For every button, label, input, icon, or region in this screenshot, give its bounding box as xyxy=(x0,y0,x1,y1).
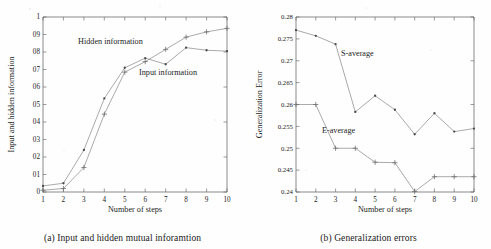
chart-a-y-axis-title: Input and hidden information xyxy=(7,56,16,152)
series-label-hidden-information: Hidden information xyxy=(78,37,143,46)
x-tick-label: 1 xyxy=(41,196,45,204)
x-tick-label: 5 xyxy=(373,196,377,204)
scan-noise-b xyxy=(306,7,432,170)
x-tick-label: 8 xyxy=(433,196,437,204)
chart-b-x-ticks xyxy=(296,17,474,192)
chart-b-x-axis-title: Number of steps xyxy=(358,205,412,214)
figure-page: 0 01 02 03 04 05 06 07 08 09 1 xyxy=(0,0,491,249)
data-point xyxy=(124,67,126,69)
chart-b-series-group xyxy=(293,29,476,194)
y-tick-label: 08 xyxy=(33,48,41,56)
data-point xyxy=(334,43,336,45)
x-tick-label: 4 xyxy=(103,196,107,204)
x-tick-label: 10 xyxy=(470,196,478,204)
series-line-input-information xyxy=(43,28,227,190)
series-label-e-average: E-average xyxy=(322,126,356,135)
y-tick-label: 0.26 xyxy=(281,101,293,108)
y-tick-label: 0.255 xyxy=(278,123,294,130)
series-line-e-average xyxy=(296,105,474,192)
data-point xyxy=(226,50,228,52)
y-tick-label: 05 xyxy=(33,101,41,109)
x-tick-label: 6 xyxy=(143,196,147,204)
data-point xyxy=(473,127,475,129)
data-point xyxy=(315,35,317,37)
data-point xyxy=(165,63,167,65)
chart-a-x-ticklabels: 1 2 3 4 5 6 7 8 9 10 xyxy=(41,196,231,204)
series-markers-hidden-information xyxy=(42,46,228,187)
data-point xyxy=(295,29,297,31)
chart-b-y-ticklabels: 0.24 0.245 0.25 0.255 0.26 0.265 0.27 0.… xyxy=(278,13,294,195)
y-tick-label: 0.275 xyxy=(278,35,294,42)
data-point xyxy=(144,57,146,59)
data-point xyxy=(374,95,376,97)
x-tick-label: 8 xyxy=(184,196,188,204)
x-tick-label: 3 xyxy=(334,196,338,204)
y-tick-label: 07 xyxy=(33,66,41,74)
data-point xyxy=(394,109,396,111)
x-tick-label: 4 xyxy=(354,196,358,204)
chart-b-axes xyxy=(296,17,474,192)
data-point xyxy=(205,49,207,51)
y-tick-label: 0.24 xyxy=(281,188,293,195)
y-tick-label: 1 xyxy=(36,13,40,21)
chart-b-y-ticks xyxy=(296,17,474,192)
x-tick-label: 7 xyxy=(164,196,168,204)
series-line-hidden-information xyxy=(43,48,227,186)
chart-b-canvas: 0.24 0.245 0.25 0.255 0.26 0.265 0.27 0.… xyxy=(246,0,491,215)
chart-a-x-axis-title: Number of steps xyxy=(108,205,162,214)
chart-b-x-ticklabels: 1 2 3 4 5 6 7 8 9 10 xyxy=(294,196,478,204)
x-tick-label: 5 xyxy=(123,196,127,204)
x-tick-label: 1 xyxy=(294,196,298,204)
y-tick-label: 0.245 xyxy=(278,166,294,173)
scan-noise-a xyxy=(29,5,215,150)
series-label-input-information: Input information xyxy=(139,68,197,77)
chart-b-y-axis-title: Generalization Error xyxy=(255,70,264,138)
y-tick-label: 09 xyxy=(33,31,41,39)
y-tick-label: 02 xyxy=(33,153,41,161)
y-tick-label: 0.265 xyxy=(278,79,294,86)
x-tick-label: 10 xyxy=(223,196,231,204)
data-point xyxy=(83,149,85,151)
data-point xyxy=(185,46,187,48)
data-point xyxy=(42,185,44,187)
y-tick-label: 06 xyxy=(33,83,41,91)
y-tick-label: 0.25 xyxy=(281,145,293,152)
x-tick-label: 6 xyxy=(393,196,397,204)
x-tick-label: 7 xyxy=(413,196,417,204)
series-line-s-average xyxy=(296,30,474,134)
data-point xyxy=(433,112,435,114)
figure-b-caption: (b) Generalization errors xyxy=(246,233,491,243)
x-tick-label: 3 xyxy=(82,196,86,204)
y-tick-label: 0.28 xyxy=(281,13,293,20)
series-label-s-average: S-average xyxy=(341,49,374,58)
figure-a-caption: (a) Input and hidden mutual inforamtion xyxy=(0,233,245,243)
data-point xyxy=(103,97,105,99)
data-point xyxy=(414,133,416,135)
data-point xyxy=(453,130,455,132)
x-tick-label: 9 xyxy=(205,196,209,204)
figure-b: 0.24 0.245 0.25 0.255 0.26 0.265 0.27 0.… xyxy=(246,0,491,249)
figure-a: 0 01 02 03 04 05 06 07 08 09 1 xyxy=(0,0,245,249)
chart-a-canvas: 0 01 02 03 04 05 06 07 08 09 1 xyxy=(0,0,245,215)
y-tick-label: 0 xyxy=(36,188,40,196)
data-point xyxy=(354,111,356,113)
series-markers-input-information xyxy=(40,26,229,193)
chart-a-series-group xyxy=(40,26,229,193)
y-tick-label: 04 xyxy=(33,118,41,126)
y-tick-label: 03 xyxy=(33,136,41,144)
x-tick-label: 9 xyxy=(452,196,456,204)
x-tick-label: 2 xyxy=(314,196,318,204)
y-tick-label: 0.27 xyxy=(281,57,293,64)
series-markers-s-average xyxy=(295,29,475,135)
y-tick-label: 01 xyxy=(33,171,41,179)
chart-a-y-ticklabels: 0 01 02 03 04 05 06 07 08 09 1 xyxy=(33,13,41,196)
x-tick-label: 2 xyxy=(62,196,66,204)
data-point xyxy=(62,182,64,184)
